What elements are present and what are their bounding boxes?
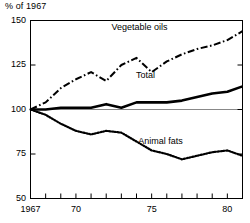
plot-area [0, 0, 250, 223]
y-tick-label: 100 [2, 104, 26, 114]
series-label-animal-fats: Animal fats [138, 136, 183, 146]
y-tick-label: 125 [2, 59, 26, 69]
y-tick-label: 150 [2, 15, 26, 25]
y-tick-label: 75 [2, 148, 26, 158]
x-tick-label: 80 [207, 204, 247, 214]
series-label-vegetable-oils: Vegetable oils [112, 22, 168, 32]
x-tick-label: 75 [132, 204, 172, 214]
series-line-total [31, 86, 243, 109]
x-tick-label: 70 [56, 204, 96, 214]
series-line-animal-fats [31, 110, 243, 160]
chart-container: % of 1967 15012510075501967707580Vegetab… [0, 0, 250, 223]
y-tick-label: 50 [2, 193, 26, 203]
x-tick-label: 1967 [11, 204, 51, 214]
series-label-total: Total [136, 70, 155, 80]
